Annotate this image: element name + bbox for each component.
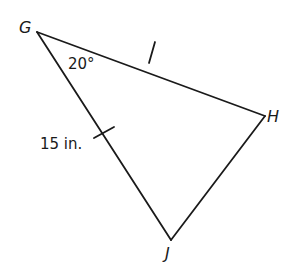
side-length-label: 15 in. [40,137,82,152]
side-gh [37,32,265,116]
vertex-label-h: H [267,109,279,125]
tick-mark-gh [149,42,155,63]
angle-label: 20° [68,57,95,72]
side-hj [171,116,265,240]
vertex-label-g: G [19,20,31,36]
vertex-label-j: J [165,246,170,262]
